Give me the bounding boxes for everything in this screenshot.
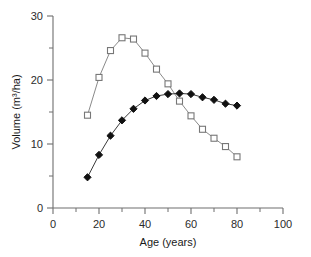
data-point-marker [211, 135, 217, 141]
data-point-marker [95, 151, 102, 158]
x-axis-tick-labels: 0 20 40 60 80 100 [50, 218, 292, 230]
y-tick-label-0: 0 [37, 202, 43, 214]
data-point-marker [153, 92, 160, 99]
data-point-marker [107, 132, 114, 139]
data-point-marker [188, 113, 194, 119]
data-point-marker [210, 96, 217, 103]
x-tick-label-80: 80 [231, 218, 243, 230]
x-tick-label-40: 40 [139, 218, 151, 230]
data-point-marker [154, 66, 160, 72]
data-point-marker [200, 126, 206, 132]
x-tick-label-20: 20 [93, 218, 105, 230]
x-axis-ticks [53, 208, 283, 214]
data-point-marker [164, 90, 171, 97]
y-tick-label-30: 30 [31, 10, 43, 22]
data-point-marker [234, 154, 240, 160]
x-tick-label-0: 0 [50, 218, 56, 230]
data-point-marker [199, 94, 206, 101]
data-point-marker [108, 48, 114, 54]
y-axis-title: Volume (m³/ha) [10, 74, 22, 149]
chart-figure: 30 20 10 0 0 20 40 60 80 100 [0, 0, 311, 257]
data-point-marker [84, 174, 91, 181]
x-tick-label-60: 60 [185, 218, 197, 230]
data-point-marker [119, 35, 125, 41]
y-tick-label-10: 10 [31, 138, 43, 150]
data-point-marker [176, 90, 183, 97]
data-series-layer [84, 35, 241, 181]
data-point-marker [142, 50, 148, 56]
data-point-marker [177, 98, 183, 104]
data-point-marker [96, 74, 102, 80]
data-point-marker [165, 81, 171, 87]
data-point-marker [222, 100, 229, 107]
data-point-marker [187, 90, 194, 97]
data-point-marker [85, 112, 91, 118]
y-axis-tick-labels: 30 20 10 0 [31, 10, 43, 214]
y-tick-label-20: 20 [31, 74, 43, 86]
x-tick-label-100: 100 [274, 218, 292, 230]
x-axis-title: Age (years) [140, 236, 197, 248]
data-point-marker [223, 144, 229, 150]
data-point-marker [233, 102, 240, 109]
data-point-marker [131, 36, 137, 42]
volume-age-line-chart: 30 20 10 0 0 20 40 60 80 100 [0, 0, 311, 257]
data-point-marker [141, 97, 148, 104]
y-axis-ticks [47, 16, 53, 208]
